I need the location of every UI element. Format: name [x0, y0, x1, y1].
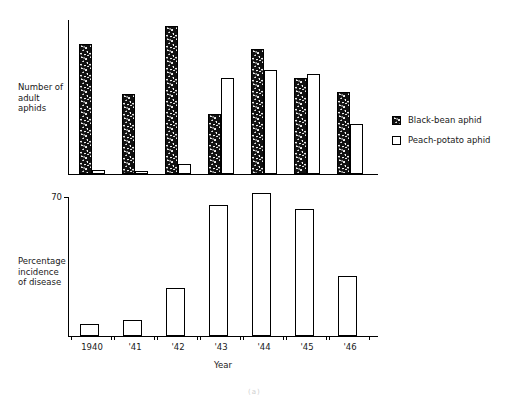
x-tick-46-1	[369, 336, 370, 340]
bar-disease-43	[209, 205, 228, 336]
y-tick-label-70: 70	[40, 192, 62, 202]
legend-item-peach-potato: Peach-potato aphid	[392, 132, 491, 148]
bar-black-bean-42	[165, 26, 178, 174]
y-axis-line-top	[68, 20, 69, 175]
y-axis-title-bottom: Percentage incidence of disease	[18, 256, 68, 288]
bar-peach-potato-1940	[92, 170, 105, 174]
bar-disease-1940	[80, 324, 99, 336]
bar-black-bean-44	[251, 49, 264, 174]
x-tick-label-43: '43	[199, 342, 243, 352]
y-axis-title-top: Number of adult aphids	[18, 82, 68, 114]
figure-root: Number of adult aphids 70 Percentage inc…	[0, 0, 515, 396]
bar-disease-44	[252, 193, 271, 336]
page-artifact: (a)	[248, 388, 261, 396]
x-axis-title: Year	[178, 360, 268, 370]
bar-peach-potato-43	[221, 78, 234, 174]
bar-black-bean-1940	[79, 44, 92, 174]
x-tick-43-0	[200, 336, 201, 340]
legend-item-black-bean: Black-bean aphid	[392, 112, 491, 128]
legend: Black-bean aphid Peach-potato aphid	[392, 112, 491, 152]
x-tick-label-1940: 1940	[70, 342, 114, 352]
cut-off-caption	[60, 0, 400, 3]
x-tick-44-1	[283, 336, 284, 340]
bar-black-bean-45	[294, 78, 307, 174]
bar-peach-potato-45	[307, 74, 320, 174]
x-tick-41-0	[114, 336, 115, 340]
bar-disease-46	[338, 276, 357, 336]
x-tick-label-44: '44	[242, 342, 286, 352]
legend-label-black-bean: Black-bean aphid	[408, 115, 482, 125]
bar-disease-41	[123, 320, 142, 336]
x-tick-label-45: '45	[285, 342, 329, 352]
bar-disease-45	[295, 209, 314, 336]
x-tick-41-1	[154, 336, 155, 340]
x-tick-43-1	[240, 336, 241, 340]
x-tick-label-41: '41	[113, 342, 157, 352]
x-tick-45-1	[326, 336, 327, 340]
y-tick-70	[64, 197, 68, 198]
x-tick-46-0	[329, 336, 330, 340]
x-tick-1940-1	[111, 336, 112, 340]
open-swatch-icon	[392, 136, 401, 145]
bar-black-bean-41	[122, 94, 135, 174]
x-tick-label-42: '42	[156, 342, 200, 352]
x-tick-45-0	[286, 336, 287, 340]
hatched-swatch-icon	[392, 116, 401, 125]
bar-black-bean-43	[208, 114, 221, 174]
bar-peach-potato-41	[135, 171, 148, 174]
bar-peach-potato-42	[178, 164, 191, 174]
x-tick-42-0	[157, 336, 158, 340]
bar-black-bean-46	[337, 92, 350, 174]
x-tick-44-0	[243, 336, 244, 340]
bar-peach-potato-46	[350, 124, 363, 174]
bar-peach-potato-44	[264, 70, 277, 174]
x-tick-42-1	[197, 336, 198, 340]
bar-disease-42	[166, 288, 185, 336]
legend-label-peach-potato: Peach-potato aphid	[408, 135, 491, 145]
x-axis-line-top	[68, 174, 378, 175]
y-axis-line-bottom	[68, 197, 69, 337]
x-tick-1940-0	[71, 336, 72, 340]
x-tick-label-46: '46	[328, 342, 372, 352]
